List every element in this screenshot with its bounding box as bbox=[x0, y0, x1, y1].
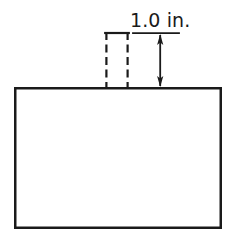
block-outline bbox=[15, 88, 221, 228]
drawing-canvas: 1.0 in. bbox=[0, 0, 235, 239]
technical-drawing-figure: 1.0 in. bbox=[0, 0, 235, 239]
dimension-label: 1.0 in. bbox=[130, 9, 190, 31]
